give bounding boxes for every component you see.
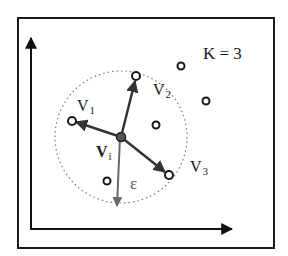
k-label: K = 3	[203, 44, 242, 63]
vector-to-v2	[121, 81, 135, 137]
point-other	[104, 178, 111, 185]
label-epsilon: ε	[130, 174, 137, 193]
point-vi-center	[117, 133, 126, 142]
vector-to-v1	[76, 122, 121, 137]
label-vi: Vi	[96, 143, 112, 162]
point-other	[203, 98, 210, 105]
label-v1: V1	[77, 97, 95, 116]
label-v2: V2	[153, 81, 171, 100]
label-v3: V3	[190, 158, 209, 177]
point-v1	[68, 117, 76, 125]
point-v3	[165, 171, 173, 179]
epsilon-radius-vector	[117, 137, 120, 206]
knn-diagram: K = 3 V1 V2 V3 Vi ε	[0, 0, 288, 256]
point-other	[178, 63, 185, 70]
point-other	[153, 122, 160, 129]
point-v2	[132, 72, 140, 80]
vector-to-v3	[121, 137, 165, 172]
